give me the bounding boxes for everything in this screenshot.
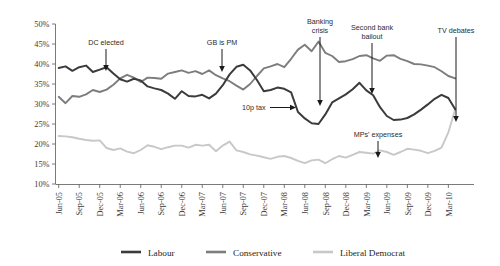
annotation-10p-tax-label: 10p tax — [242, 103, 266, 112]
x-tick-label: Jun-07 — [219, 192, 228, 215]
x-tick-label: Jun-08 — [301, 192, 310, 215]
x-tick-label: Dec-06 — [178, 192, 187, 216]
x-tick-label: Mar-07 — [198, 192, 207, 217]
x-tick-label: Jun-06 — [137, 192, 146, 215]
annotation-banking-crisis-label-2: crisis — [312, 26, 329, 35]
annotation-tv-debates-arrow — [453, 116, 459, 122]
y-tick-label: 15% — [34, 160, 49, 169]
x-tick-label: Dec-05 — [96, 192, 105, 216]
y-axis-tick-labels: 10%15%20%25%30%35%40%45%50% — [34, 20, 49, 189]
series-labour — [59, 65, 456, 124]
x-tick-label: Sep-07 — [239, 192, 248, 216]
x-tick-label: Mar-08 — [280, 192, 289, 217]
poll-trends-chart: 10%15%20%25%30%35%40%45%50% Jun-05Sep-05… — [0, 0, 500, 266]
y-tick-label: 25% — [34, 120, 49, 129]
x-axis-tick-labels: Jun-05Sep-05Dec-05Mar-06Jun-06Sep-06Dec-… — [55, 192, 454, 217]
x-tick-label: Dec-09 — [424, 192, 433, 216]
legend-label-labour: Labour — [148, 248, 175, 258]
series-conservative — [59, 42, 456, 104]
legend: Labour Conservative Liberal Democrat — [121, 248, 405, 258]
annotation-second-bailout-label-2: bailout — [361, 32, 382, 41]
annotation-tv-debates-label: TV debates — [438, 26, 475, 35]
y-tick-label: 50% — [34, 20, 49, 29]
annotation-banking-crisis-label-1: Banking — [307, 17, 333, 26]
annotation-banking-crisis-arrow — [317, 100, 323, 106]
x-tick-label: Sep-05 — [75, 192, 84, 216]
y-tick-label: 45% — [34, 40, 49, 49]
x-tick-label: Jun-05 — [55, 192, 64, 215]
chart-svg: 10%15%20%25%30%35%40%45%50% Jun-05Sep-05… — [0, 0, 500, 266]
x-tick-label: Dec-08 — [342, 192, 351, 216]
x-tick-label: Jun-09 — [383, 192, 392, 215]
legend-label-liberal-democrat: Liberal Democrat — [340, 248, 405, 258]
x-tick-label: Mar-06 — [116, 192, 125, 217]
x-tick-label: Sep-09 — [404, 192, 413, 216]
annotation-mps-expenses-label: MPs' expenses — [354, 130, 403, 139]
y-tick-label: 10% — [34, 180, 49, 189]
legend-label-conservative: Conservative — [233, 248, 281, 258]
annotation-gb-is-pm-arrow — [219, 66, 225, 72]
y-tick-label: 20% — [34, 140, 49, 149]
annotation-second-bailout-label-1: Second bank — [351, 23, 393, 32]
annotation-mps-expenses-arrow — [375, 152, 381, 158]
x-tick-label: Mar-10 — [445, 192, 454, 217]
annotation-gb-is-pm-label: GB is PM — [207, 38, 237, 47]
annotation-dc-elected-label: DC elected — [88, 38, 124, 47]
y-tick-label: 40% — [34, 60, 49, 69]
x-tick-label: Mar-09 — [363, 192, 372, 217]
x-tick-label: Sep-06 — [157, 192, 166, 216]
y-tick-label: 35% — [34, 80, 49, 89]
y-axis-ticks — [52, 24, 56, 184]
x-tick-label: Dec-07 — [260, 192, 269, 216]
y-tick-label: 30% — [34, 100, 49, 109]
x-tick-label: Sep-08 — [322, 192, 331, 216]
